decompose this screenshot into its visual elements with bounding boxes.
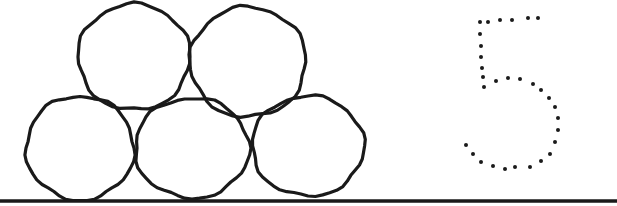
circle-bottom-middle: [136, 99, 251, 199]
trace-dot: [556, 116, 560, 120]
stacked-circles-group: [25, 2, 365, 201]
counting-worksheet: 5: [0, 0, 617, 206]
trace-dot: [479, 160, 483, 164]
circle-top-left: [78, 2, 190, 109]
trace-dot: [503, 167, 507, 171]
trace-dot: [471, 152, 475, 156]
trace-dot: [480, 66, 484, 70]
trace-dot: [494, 79, 498, 83]
trace-dot: [513, 165, 517, 169]
trace-dot: [536, 16, 540, 20]
trace-dot: [528, 165, 532, 169]
trace-dot: [478, 32, 482, 36]
dotted-numeral-five: [464, 16, 560, 171]
trace-dot: [526, 16, 530, 20]
trace-dot: [481, 75, 485, 79]
trace-dot: [539, 88, 543, 92]
circle-bottom-left: [25, 97, 135, 201]
trace-dot: [498, 18, 502, 22]
trace-dot: [491, 164, 495, 168]
trace-dot: [553, 105, 557, 109]
trace-dot: [464, 143, 468, 147]
trace-dot: [479, 55, 483, 59]
trace-dot: [478, 20, 482, 24]
circle-bottom-right: [253, 95, 366, 197]
trace-dot: [479, 44, 483, 48]
trace-dot: [539, 159, 543, 163]
circle-top-right: [189, 5, 306, 117]
trace-dot: [531, 82, 535, 86]
trace-dot: [556, 128, 560, 132]
trace-dot: [506, 76, 510, 80]
trace-dot: [553, 140, 557, 144]
trace-dot: [548, 152, 552, 156]
trace-dot: [518, 77, 522, 81]
trace-dot: [486, 20, 490, 24]
trace-dot: [547, 96, 551, 100]
trace-dot: [510, 18, 514, 22]
trace-dot: [482, 85, 486, 89]
